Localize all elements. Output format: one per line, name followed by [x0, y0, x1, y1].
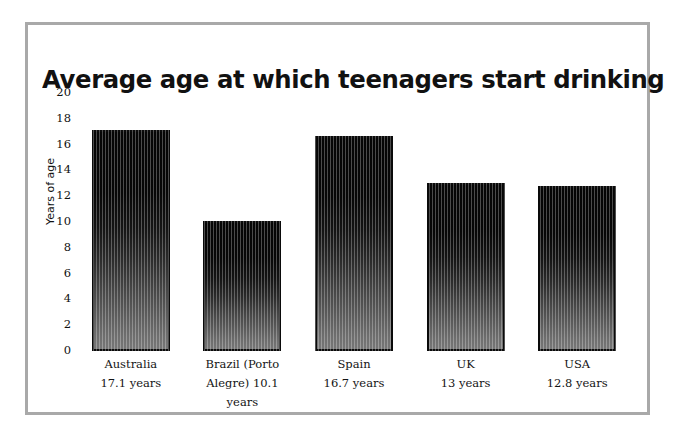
- x-tick-label-line: 12.8 years: [521, 374, 633, 393]
- x-tick-label-line: 13 years: [410, 374, 522, 393]
- x-tick-label-usa: USA12.8 years: [521, 355, 633, 393]
- x-tick-label-line: Brazil (Porto: [187, 355, 299, 374]
- figure-frame: Average age at which teenagers start dri…: [25, 22, 650, 415]
- bar-brazil-porto-alegre: [203, 221, 281, 351]
- y-tick-label-0: 0: [37, 345, 71, 357]
- x-tick-label-australia: Australia17.1 years: [75, 355, 187, 393]
- x-tick-label-line: years: [187, 393, 299, 412]
- bar-usa: [538, 186, 616, 351]
- chart-title: Average age at which teenagers start dri…: [42, 64, 639, 94]
- x-tick-label-brazil-porto-alegre: Brazil (PortoAlegre) 10.1years: [187, 355, 299, 412]
- bar-spain: [315, 136, 393, 351]
- x-axis-tick-labels: Australia17.1 yearsBrazil (PortoAlegre) …: [75, 355, 633, 417]
- x-tick-label-line: UK: [410, 355, 522, 374]
- x-tick-label-line: Australia: [75, 355, 187, 374]
- x-tick-label-line: Alegre) 10.1: [187, 374, 299, 393]
- bar-uk: [427, 183, 505, 351]
- x-tick-label-line: Spain: [298, 355, 410, 374]
- x-tick-label-line: 16.7 years: [298, 374, 410, 393]
- y-tick-label-2: 2: [37, 319, 71, 331]
- plot-area: [75, 93, 633, 351]
- y-tick-label-4: 4: [37, 293, 71, 305]
- y-axis-title: Years of age: [44, 137, 57, 247]
- bar-australia: [92, 130, 170, 351]
- screenshot-root: Average age at which teenagers start dri…: [0, 0, 675, 436]
- y-tick-label-6: 6: [37, 268, 71, 280]
- x-tick-label-uk: UK13 years: [410, 355, 522, 393]
- y-tick-label-20: 20: [37, 87, 71, 99]
- y-tick-label-18: 18: [37, 113, 71, 125]
- x-tick-label-line: 17.1 years: [75, 374, 187, 393]
- x-tick-label-spain: Spain16.7 years: [298, 355, 410, 393]
- x-tick-label-line: USA: [521, 355, 633, 374]
